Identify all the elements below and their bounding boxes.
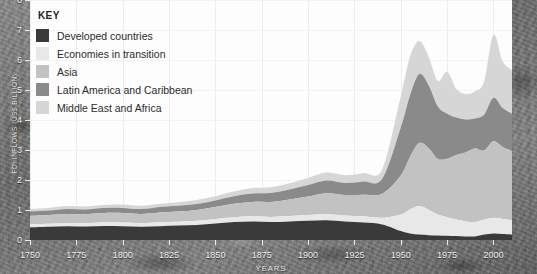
x-axis-tick-label: 2000 — [483, 250, 503, 260]
chart-legend: KEY Developed countriesEconomies in tran… — [36, 10, 192, 118]
x-axis-tick-label: 1750 — [20, 250, 40, 260]
x-axis-tick-mark — [76, 240, 77, 245]
y-axis-tick-label: 3 — [6, 145, 22, 155]
y-axis-tick-mark — [25, 120, 30, 121]
x-axis-tick-mark — [123, 240, 124, 245]
legend-item-label: Latin America and Caribbean — [57, 84, 192, 96]
x-axis-tick-label: 1975 — [437, 250, 457, 260]
legend-title: KEY — [38, 10, 192, 21]
x-axis-title: YEARS — [256, 264, 287, 273]
x-axis-tick-mark — [308, 240, 309, 245]
x-axis-tick-mark — [493, 240, 494, 245]
legend-item: Latin America and Caribbean — [36, 82, 192, 97]
x-axis-tick-mark — [447, 240, 448, 245]
y-axis-tick-label: 1 — [6, 205, 22, 215]
y-axis-tick-label: 2 — [6, 175, 22, 185]
x-axis-tick-label: 1950 — [391, 250, 411, 260]
x-axis-tick-mark — [169, 240, 170, 245]
legend-item: Middle East and Africa — [36, 100, 192, 115]
legend-item: Asia — [36, 64, 192, 79]
y-axis-tick-mark — [25, 30, 30, 31]
y-axis-tick-label: 4 — [6, 115, 22, 125]
y-axis-tick-label: 6 — [6, 55, 22, 65]
x-axis-tick-label: 1850 — [205, 250, 225, 260]
x-axis-tick-label: 1825 — [159, 250, 179, 260]
legend-swatch — [36, 101, 49, 114]
legend-item-label: Asia — [57, 66, 77, 78]
y-axis-tick-mark — [25, 210, 30, 211]
legend-item: Economies in transition — [36, 46, 192, 61]
x-axis-tick-label: 1800 — [113, 250, 133, 260]
y-axis-tick-mark — [25, 150, 30, 151]
x-axis-tick-mark — [401, 240, 402, 245]
y-axis-tick-mark — [25, 60, 30, 61]
x-axis-tick-label: 1875 — [252, 250, 272, 260]
x-axis-tick-label: 1925 — [344, 250, 364, 260]
y-axis-tick-mark — [25, 180, 30, 181]
legend-swatch — [36, 83, 49, 96]
y-axis-tick-label: 8 — [6, 0, 22, 5]
y-axis-tick-label: 7 — [6, 25, 22, 35]
x-axis: YEARS 1750177518001825185018751900192519… — [30, 240, 512, 274]
x-axis-tick-mark — [354, 240, 355, 245]
y-axis-tick-mark — [25, 90, 30, 91]
legend-swatch — [36, 65, 49, 78]
y-axis-tick-label: 5 — [6, 85, 22, 95]
legend-swatch — [36, 47, 49, 60]
x-axis-tick-label: 1775 — [66, 250, 86, 260]
x-axis-tick-mark — [215, 240, 216, 245]
legend-item-label: Middle East and Africa — [57, 102, 161, 114]
legend-item-label: Economies in transition — [57, 48, 166, 60]
legend-swatch — [36, 29, 49, 42]
x-axis-tick-label: 1900 — [298, 250, 318, 260]
y-axis: FDI INFLOWS (US$ BILLION) 012345678 — [0, 0, 30, 240]
x-axis-tick-mark — [262, 240, 263, 245]
legend-items: Developed countriesEconomies in transiti… — [36, 28, 192, 115]
y-axis-tick-label: 0 — [6, 235, 22, 245]
x-axis-tick-mark — [30, 240, 31, 245]
legend-item: Developed countries — [36, 28, 192, 43]
y-axis-tick-mark — [25, 0, 30, 1]
chart-plot-area: KEY Developed countriesEconomies in tran… — [30, 0, 512, 240]
legend-item-label: Developed countries — [57, 30, 153, 42]
